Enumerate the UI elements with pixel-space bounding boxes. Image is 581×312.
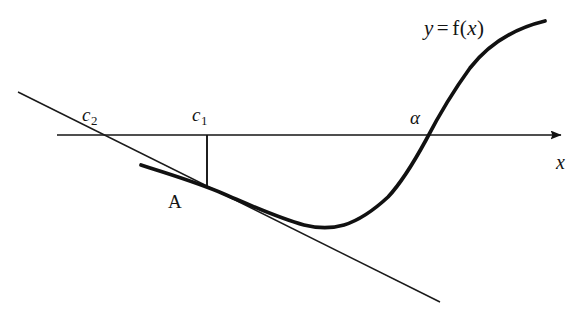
equation-y: y — [424, 16, 434, 40]
equation-equals: = — [434, 16, 452, 40]
c1-label: c1 — [192, 105, 207, 128]
diagram-canvas — [0, 0, 581, 312]
curve-equation-label: y=f(x) — [424, 18, 485, 39]
axis-label-x: x — [556, 152, 565, 172]
c1-subscript: 1 — [200, 113, 207, 128]
figure-root: y=f(x) x c2 c1 α A — [0, 0, 581, 312]
equation-argument: x — [467, 16, 477, 40]
alpha-root-label: α — [410, 108, 420, 127]
equation-f-open: f( — [452, 16, 467, 40]
point-a-label: A — [168, 192, 182, 211]
c2-subscript: 2 — [90, 113, 97, 128]
c2-label: c2 — [82, 105, 97, 128]
equation-close-paren: ) — [477, 16, 485, 40]
